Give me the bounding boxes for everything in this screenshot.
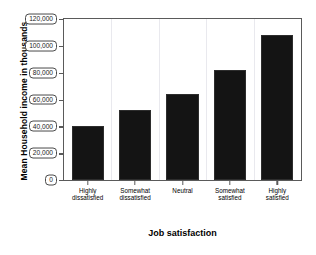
bar[interactable] xyxy=(214,70,246,180)
y-tick-label: 80,000 xyxy=(29,67,57,78)
x-tick-mark xyxy=(277,180,278,185)
bar-column[interactable] xyxy=(159,19,206,180)
x-tick-label: Somewhatsatisfied xyxy=(215,187,245,202)
x-tick-label-line: Highly xyxy=(72,187,103,194)
bar[interactable] xyxy=(261,35,293,180)
x-tick-label-line: Neutral xyxy=(172,187,192,194)
bar[interactable] xyxy=(166,94,198,180)
x-tick-label-line: satisfied xyxy=(266,194,289,201)
y-tick-label: 40,000 xyxy=(29,121,57,132)
y-tick-label: 120,000 xyxy=(25,14,57,25)
chart-figure: Mean Household income in thousands 020,0… xyxy=(0,0,316,255)
bar-column[interactable] xyxy=(206,19,253,180)
x-tick-mark xyxy=(87,180,88,185)
x-tick-label-line: Highly xyxy=(266,187,289,194)
x-tick-label: Neutral xyxy=(172,187,192,194)
y-tick-label: 20,000 xyxy=(29,148,57,159)
y-tick-label: 100,000 xyxy=(25,40,57,51)
y-tick-mark xyxy=(59,180,64,181)
bar[interactable] xyxy=(119,110,151,180)
bar-column[interactable] xyxy=(64,19,111,180)
x-tick-label-line: dissatisfied xyxy=(72,194,103,201)
plot-area: 020,00040,00060,00080,000100,000120,000 … xyxy=(63,18,302,181)
x-tick-label-line: satisfied xyxy=(215,194,245,201)
x-tick-label: Highlysatisfied xyxy=(266,187,289,202)
x-tick-mark xyxy=(134,180,135,185)
bar[interactable] xyxy=(72,126,104,180)
x-tick-label-line: Somewhat xyxy=(215,187,245,194)
x-tick-label-line: Somewhat xyxy=(120,187,151,194)
x-tick-mark xyxy=(182,180,183,185)
x-axis-title: Job satisfaction xyxy=(63,228,302,238)
y-tick-label: 0 xyxy=(45,175,57,186)
x-tick-label: Highlydissatisfied xyxy=(72,187,103,202)
x-tick-label-line: dissatisfied xyxy=(120,194,151,201)
y-tick-label: 60,000 xyxy=(29,94,57,105)
bar-column[interactable] xyxy=(111,19,158,180)
x-tick-label: Somewhatdissatisfied xyxy=(120,187,151,202)
bar-series xyxy=(64,19,301,180)
bar-column[interactable] xyxy=(254,19,301,180)
x-tick-mark xyxy=(229,180,230,185)
